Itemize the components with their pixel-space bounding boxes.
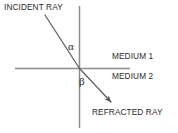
- incident-ray-label: INCIDENT RAY: [4, 3, 63, 12]
- refracted-ray-label: REFRACTED RAY: [92, 108, 163, 117]
- angle-of-refraction-label: β: [79, 76, 85, 87]
- medium-2-label: MEDIUM 2: [112, 72, 153, 81]
- angle-of-incidence-label: α: [68, 41, 74, 52]
- refraction-diagram: INCIDENT RAY MEDIUM 1 MEDIUM 2 REFRACTED…: [0, 0, 178, 133]
- medium-1-label: MEDIUM 1: [112, 52, 153, 61]
- incident-ray-line: [45, 15, 80, 69]
